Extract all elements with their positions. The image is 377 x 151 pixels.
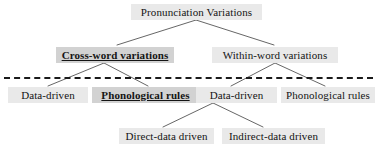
node-indirect-data-driven[interactable]: Indirect-data driven xyxy=(222,128,325,144)
edge-root-to-within-word xyxy=(196,20,274,45)
pronunciation-variations-diagram: Pronunciation Variations Cross-word vari… xyxy=(0,0,377,151)
node-within-word-data-driven[interactable]: Data-driven xyxy=(196,87,277,103)
edge-data-driven-to-indirect-data xyxy=(213,103,263,127)
node-label: Phonological rules xyxy=(101,90,189,101)
edge-cross-word-to-phonological-rules xyxy=(104,63,148,86)
node-label: Data-driven xyxy=(21,90,75,101)
node-cross-word-variations[interactable]: Cross-word variations xyxy=(56,47,174,63)
node-label: Indirect-data driven xyxy=(229,131,318,142)
scope-separator-dashed-line xyxy=(4,77,373,79)
node-within-word-variations[interactable]: Within-word variations xyxy=(212,47,338,63)
node-cross-word-data-driven[interactable]: Data-driven xyxy=(8,87,88,103)
edge-root-to-cross-word xyxy=(117,20,196,45)
node-within-word-phonological-rules[interactable]: Phonological rules xyxy=(281,87,375,103)
node-label: Within-word variations xyxy=(223,50,328,61)
edge-within-word-to-phonological-rules xyxy=(275,63,325,86)
edge-within-word-to-data-driven xyxy=(231,63,275,86)
node-direct-data-driven[interactable]: Direct-data driven xyxy=(119,128,214,144)
edge-data-driven-to-direct-data xyxy=(163,103,213,127)
node-label: Pronunciation Variations xyxy=(141,7,252,18)
node-label: Data-driven xyxy=(210,90,264,101)
node-label: Cross-word variations xyxy=(62,50,169,61)
edge-cross-word-to-data-driven xyxy=(48,63,104,86)
node-label: Phonological rules xyxy=(286,90,370,101)
node-cross-word-phonological-rules[interactable]: Phonological rules xyxy=(92,87,199,103)
node-pronunciation-variations[interactable]: Pronunciation Variations xyxy=(131,4,262,20)
node-label: Direct-data driven xyxy=(125,131,207,142)
